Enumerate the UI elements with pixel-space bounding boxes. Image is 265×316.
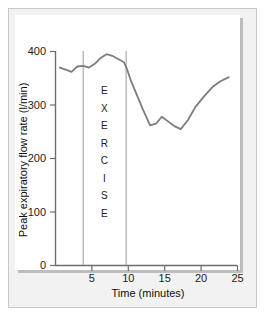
y-axis-tick-labels: 0 100 200 300 400 bbox=[28, 45, 46, 271]
x-tick-label-15: 15 bbox=[159, 272, 171, 284]
exercise-letter-8: E bbox=[101, 208, 108, 219]
y-tick-label-100: 100 bbox=[28, 206, 46, 218]
y-tick-label-200: 200 bbox=[28, 152, 46, 164]
x-axis-tick-labels: 5 10 15 20 25 bbox=[89, 272, 244, 284]
y-tick-label-300: 300 bbox=[28, 99, 46, 111]
x-tick-label-5: 5 bbox=[89, 272, 95, 284]
exercise-letter-3: E bbox=[101, 120, 108, 131]
exercise-label: EXERCISE bbox=[101, 85, 108, 219]
data-series-line bbox=[60, 54, 229, 129]
exercise-letter-4: R bbox=[101, 138, 108, 149]
x-axis-ticks bbox=[92, 266, 238, 272]
line-chart: Peak expiratory flow rate (l/min) Time (… bbox=[0, 0, 265, 316]
x-tick-label-10: 10 bbox=[122, 272, 134, 284]
x-tick-label-20: 20 bbox=[195, 272, 207, 284]
exercise-letter-2: X bbox=[101, 103, 108, 114]
exercise-letter-5: C bbox=[101, 155, 108, 166]
x-axis-title: Time (minutes) bbox=[112, 287, 185, 299]
y-tick-label-0: 0 bbox=[40, 259, 46, 271]
exercise-letter-7: S bbox=[101, 190, 108, 201]
y-tick-label-400: 400 bbox=[28, 45, 46, 57]
exercise-letter-1: E bbox=[101, 85, 108, 96]
x-tick-label-25: 25 bbox=[231, 272, 243, 284]
figure-container: Peak expiratory flow rate (l/min) Time (… bbox=[0, 0, 265, 316]
exercise-letter-6: I bbox=[103, 173, 106, 184]
y-axis-ticks bbox=[50, 52, 56, 266]
